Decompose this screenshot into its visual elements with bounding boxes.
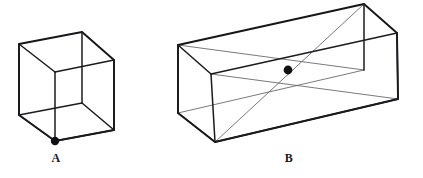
cube-bottom-right-edge [55,130,114,141]
cuboid-bottom-long-edge [215,99,398,142]
cuboid-upper-thin-edge [178,45,364,70]
shape-b-label: B [277,152,301,164]
cuboid-right-vertical-edge [397,33,398,99]
figure-container: A B [0,0,423,178]
shape-b-cuboid [178,4,398,142]
cube-bottom-left-edge [19,115,55,141]
cuboid-bottom-left-edge [178,113,215,142]
cuboid-diagonal-intersection-dot [284,66,293,75]
cuboid-top-left-edge [178,45,211,74]
cube-top-left-edge [19,44,55,72]
shape-a-label: A [44,152,68,164]
cuboid-diagonal-two [211,74,398,99]
cuboid-front-vertical-edge [211,74,215,142]
shape-a-cube [19,32,114,145]
cube-top-right-edge [55,60,114,72]
cuboid-hidden-back-thin-edge [178,70,364,113]
cube-marked-vertex-dot [51,137,59,145]
